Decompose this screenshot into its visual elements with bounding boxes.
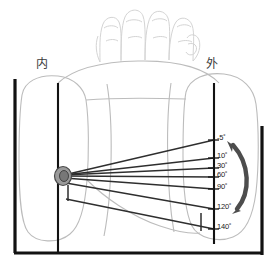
ray-60 [64, 176, 214, 177]
angle-label-10: 10˚ [217, 152, 227, 160]
perpendicular-markers [68, 185, 201, 231]
ray--5 [64, 140, 214, 175]
hand-fingers-outline [96, 10, 199, 62]
angle-label-60: 60˚ [217, 171, 227, 179]
angle-label-30: 30˚ [217, 162, 227, 170]
ray-10 [64, 158, 214, 175]
diagram-canvas: 内 外 -5˚ 10˚ 30˚ 60˚ 90˚ 120˚ 140˚ [0, 0, 277, 265]
angle-label-90: 90˚ [217, 183, 227, 191]
lateral-side-label: 外 [206, 58, 218, 70]
joint-center-pivot [55, 167, 72, 186]
ray-140 [66, 199, 214, 229]
angle-label-140: 140˚ [217, 223, 231, 231]
ray-30 [64, 168, 214, 175]
diagram-svg [0, 0, 277, 265]
arrow-head-top [227, 141, 233, 152]
angle-label-120: 120˚ [217, 203, 231, 211]
angle-label-minus5: -5˚ [217, 134, 226, 142]
arrow-head-bottom [232, 209, 241, 214]
medial-side-label: 内 [36, 58, 48, 70]
